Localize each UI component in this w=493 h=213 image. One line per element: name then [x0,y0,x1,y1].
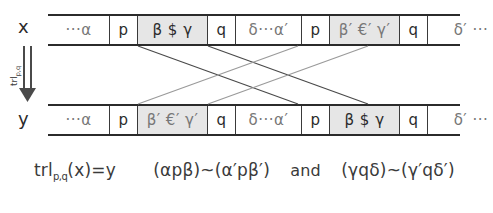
tape-cell: β′ €′ γ′ [330,16,400,44]
caption-relation-left: (αpβ)~(α′pβ′) [153,160,270,180]
tape-cell: p [302,16,330,44]
translation-diagram: x y trlp,q ···αpβ $ γqδ···α′pβ′ €′ γ′qδ′… [0,0,493,213]
tape-cell: δ···α′ [236,16,302,44]
arrow-label-text: trl [9,76,19,86]
caption-conjunction: and [290,161,321,180]
tape-cell: q [208,16,236,44]
output-tape-label: y [18,108,29,129]
caption-translation-formula: trlp,q(x)=y [34,160,116,180]
caption-trl-subscript: p,q [53,171,67,182]
tape-cell: δ′ ··· [428,16,493,44]
tape-cell: δ···α′ [236,106,302,134]
tape-cell: β′ €′ γ′ [138,106,208,134]
connector-line [208,46,368,104]
tape-cell: β $ γ [330,106,400,134]
connector-line [138,46,298,104]
connector-line [138,46,298,104]
input-tape: ···αpβ $ γqδ···α′pβ′ €′ γ′qδ′ ··· [48,14,460,46]
output-tape: ···αpβ′ €′ γ′qδ···α′pβ $ γqδ′ ··· [48,104,460,136]
translation-arrow-group: trlp,q [8,44,48,106]
tape-cell: q [400,106,428,134]
caption-trl-rest: (x)=y [67,160,116,180]
input-tape-label: x [18,16,29,37]
tape-cell: δ′ ··· [428,106,493,134]
arrow-label: trlp,q [9,56,22,96]
tape-cell: p [110,16,138,44]
tape-cell: p [110,106,138,134]
tape-cell: q [208,106,236,134]
tape-cell: p [302,106,330,134]
tape-cell: ···α [48,106,110,134]
tape-cell: ···α [48,16,110,44]
connector-line [208,46,368,104]
arrow-label-subscript: p,q [14,66,22,76]
tape-cell: β $ γ [138,16,208,44]
tape-cell: q [400,16,428,44]
figure-caption: trlp,q(x)=y (αpβ)~(α′pβ′) and (γqδ)~(γ′q… [34,160,474,182]
caption-trl-symbol: trl [34,160,53,180]
caption-relation-right: (γqδ)~(γ′qδ′) [341,160,455,180]
